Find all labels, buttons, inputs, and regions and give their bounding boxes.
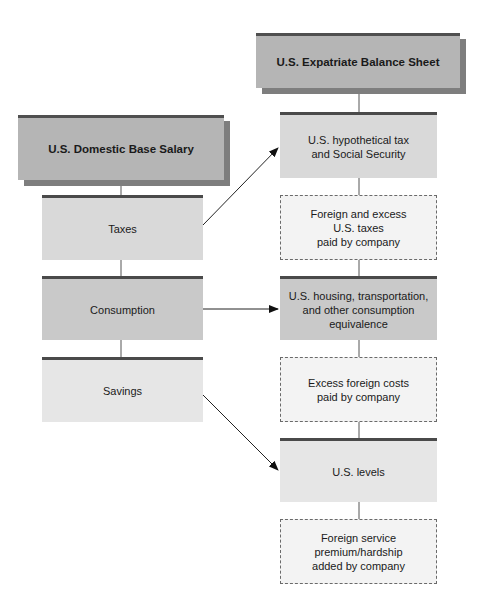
- foreign-service-premium-box: Foreign service premium/hardship added b…: [280, 519, 437, 584]
- foreign-service-premium-label: Foreign service premium/hardship added b…: [312, 531, 405, 573]
- foreign-excess-taxes-box: Foreign and excess U.S. taxes paid by co…: [280, 195, 437, 260]
- hypothetical-tax-box: U.S. hypothetical tax and Social Securit…: [280, 112, 437, 178]
- arrow-savings: [203, 395, 278, 470]
- domestic-header-label: U.S. Domestic Base Salary: [48, 142, 194, 156]
- excess-foreign-costs-box: Excess foreign costs paid by company: [280, 357, 437, 422]
- domestic-base-salary-header: U.S. Domestic Base Salary: [18, 115, 224, 180]
- us-levels-box: U.S. levels: [280, 438, 437, 502]
- taxes-box: Taxes: [42, 195, 203, 260]
- expatriate-header-label: U.S. Expatriate Balance Sheet: [277, 55, 440, 69]
- savings-box: Savings: [42, 357, 203, 422]
- housing-transportation-label: U.S. housing, transportation, and other …: [289, 289, 428, 331]
- savings-label: Savings: [103, 384, 142, 398]
- taxes-label: Taxes: [108, 222, 137, 236]
- foreign-excess-taxes-label: Foreign and excess U.S. taxes paid by co…: [311, 207, 407, 249]
- consumption-label: Consumption: [90, 303, 155, 317]
- excess-foreign-costs-label: Excess foreign costs paid by company: [308, 376, 409, 404]
- hypothetical-tax-label: U.S. hypothetical tax and Social Securit…: [308, 133, 409, 161]
- consumption-box: Consumption: [42, 276, 203, 340]
- us-levels-label: U.S. levels: [332, 465, 385, 479]
- housing-transportation-box: U.S. housing, transportation, and other …: [280, 276, 437, 340]
- expatriate-balance-sheet-header: U.S. Expatriate Balance Sheet: [256, 33, 460, 88]
